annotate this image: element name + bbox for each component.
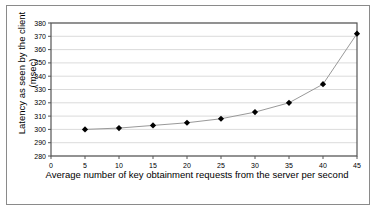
data-point-marker [252, 109, 258, 115]
x-axis-label: Average number of key obtainment request… [37, 169, 357, 181]
x-tick-label: 30 [251, 162, 259, 169]
data-point-marker [218, 116, 224, 122]
x-tick-label: 45 [353, 162, 361, 169]
y-tick-label: 350 [34, 59, 46, 66]
y-tick-label: 330 [34, 86, 46, 93]
data-point-marker [184, 120, 190, 126]
x-tick-label: 40 [319, 162, 327, 169]
y-tick-label: 360 [34, 46, 46, 53]
data-point-marker [286, 100, 292, 106]
y-tick-label: 340 [34, 73, 46, 80]
x-tick-label: 5 [83, 162, 87, 169]
x-tick-label: 0 [49, 162, 53, 169]
x-tick-label: 20 [183, 162, 191, 169]
data-point-marker [116, 125, 122, 131]
data-point-marker [82, 126, 88, 132]
y-tick-label: 380 [34, 20, 46, 27]
y-tick-label: 310 [34, 113, 46, 120]
y-tick-label: 370 [34, 33, 46, 40]
x-tick-label: 25 [217, 162, 225, 169]
data-series-line [85, 34, 357, 130]
y-tick-label: 280 [34, 153, 46, 160]
data-point-marker [320, 81, 326, 87]
data-point-marker [150, 122, 156, 128]
y-tick-label: 300 [34, 126, 46, 133]
y-tick-label: 320 [34, 99, 46, 106]
x-tick-label: 35 [285, 162, 293, 169]
y-tick-label: 290 [34, 139, 46, 146]
chart-plot-container: Latency as seen by the client (msec) 280… [7, 6, 369, 204]
data-point-marker [354, 31, 360, 37]
x-tick-label: 10 [115, 162, 123, 169]
chart-figure: Latency as seen by the client (msec) 280… [6, 5, 370, 205]
x-tick-label: 15 [149, 162, 157, 169]
